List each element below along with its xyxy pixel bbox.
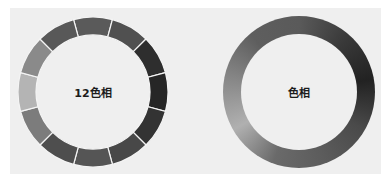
twelve-hue-label: 12色相 bbox=[74, 84, 111, 100]
hue-segment bbox=[18, 73, 38, 112]
hue-segment bbox=[74, 147, 113, 167]
hue-segment bbox=[148, 73, 168, 112]
hue-label: 色相 bbox=[288, 84, 310, 100]
hue-segment bbox=[74, 17, 113, 37]
